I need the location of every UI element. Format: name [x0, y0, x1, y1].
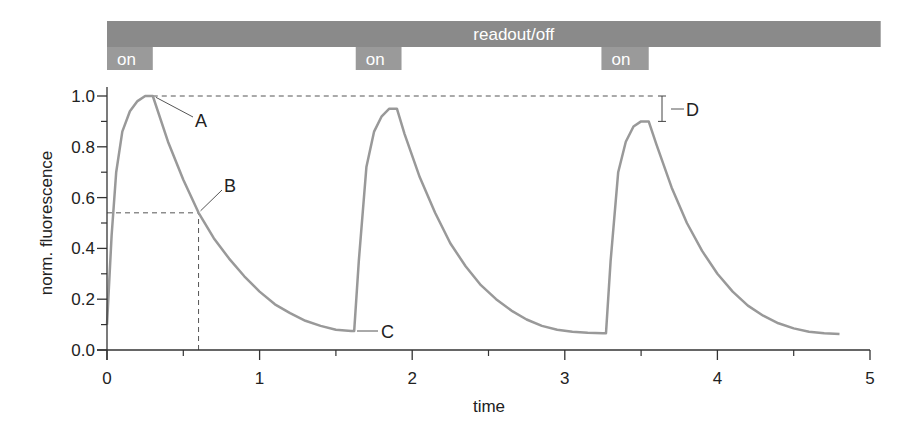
annotation-a-label: A [195, 111, 207, 131]
x-tick-label: 2 [407, 369, 416, 388]
on-pulse-label-3: on [611, 50, 630, 69]
annotation-b-leader [201, 190, 222, 211]
axes: 0123450.00.20.40.60.81.0 [71, 87, 874, 388]
y-tick-label: 0.4 [71, 239, 95, 258]
x-tick-label: 0 [102, 369, 111, 388]
annotation-b-label: B [224, 176, 236, 196]
y-tick-label: 0.6 [71, 189, 95, 208]
y-tick-label: 0.0 [71, 341, 95, 360]
fluorescence-curve [107, 96, 840, 334]
on-pulse-label-1: on [117, 50, 136, 69]
fluorescence-chart: readout/offononon 0123450.00.20.40.60.81… [0, 0, 903, 432]
annotation-d-label: D [686, 100, 699, 120]
x-tick-label: 4 [713, 369, 722, 388]
x-axis-title: time [473, 397, 505, 416]
y-tick-label: 0.2 [71, 290, 95, 309]
annotation-c-label: C [381, 322, 394, 342]
timeline-bars: readout/offononon [107, 21, 881, 70]
reference-lines [107, 96, 656, 350]
x-tick-label: 3 [560, 369, 569, 388]
y-tick-label: 1.0 [71, 87, 95, 106]
annotation-a-leader [156, 97, 193, 117]
data-series [107, 96, 840, 334]
on-pulse-label-2: on [366, 50, 385, 69]
readout-bar-label: readout/off [473, 25, 554, 44]
x-tick-label: 5 [865, 369, 874, 388]
annotations: ABCD [156, 96, 699, 342]
y-axis-title: norm. fluorescence [37, 151, 56, 296]
x-tick-label: 1 [255, 369, 264, 388]
y-tick-label: 0.8 [71, 138, 95, 157]
